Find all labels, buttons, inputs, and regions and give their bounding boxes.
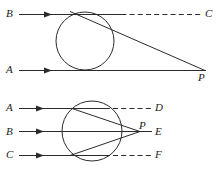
upper-ray-a-arrowhead bbox=[44, 67, 52, 73]
lower-ray-b-arrowhead bbox=[36, 128, 44, 134]
upper-diagram bbox=[19, 11, 206, 73]
label-lower-e: E bbox=[155, 126, 162, 137]
upper-ray-b-arrowhead bbox=[44, 11, 52, 17]
label-upper-c: C bbox=[205, 8, 212, 19]
label-lower-c: C bbox=[6, 149, 13, 160]
upper-circle bbox=[56, 12, 114, 70]
label-upper-a: A bbox=[6, 64, 13, 75]
lower-diagram bbox=[19, 101, 152, 161]
label-lower-f: F bbox=[155, 149, 162, 160]
lower-deflected-c bbox=[70, 132, 140, 156]
geometry-figure bbox=[0, 0, 221, 173]
label-lower-p: P bbox=[139, 120, 146, 131]
lower-deflected-a bbox=[72, 109, 140, 132]
label-lower-d: D bbox=[155, 102, 163, 113]
lower-ray-a-arrowhead bbox=[36, 105, 44, 111]
label-upper-b: B bbox=[6, 8, 13, 19]
label-lower-a: A bbox=[6, 102, 13, 113]
label-upper-p: P bbox=[198, 72, 205, 83]
lower-ray-c-arrowhead bbox=[36, 152, 44, 158]
upper-deflected-ray bbox=[70, 12, 205, 71]
figure-container: B C A P A B C D P E F bbox=[0, 0, 221, 173]
label-lower-b: B bbox=[6, 126, 13, 137]
